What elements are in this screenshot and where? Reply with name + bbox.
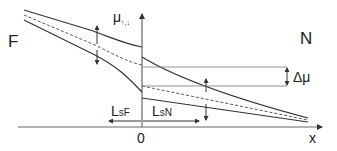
lsf-label: LsF [111,104,130,118]
ferromagnet-mu-down-curve [24,20,142,92]
y-axis-label: μ↑,↓ [113,10,130,24]
x-axis-label: x [309,131,316,145]
ferromagnet-label: F [8,33,18,50]
spin-subscript: ↑,↓ [121,19,130,26]
normal-metal-label: N [300,30,312,47]
spin-accumulation-diagram [0,0,337,151]
lsn-subscript: sN [160,107,172,118]
origin-label: 0 [137,131,145,145]
mu-symbol: μ [113,9,121,25]
lsf-subscript: sF [119,107,130,118]
lsn-label: LsN [152,104,172,118]
lsn-L: L [152,103,160,119]
delta-mu-label: Δμ [293,70,310,84]
lsf-L: L [111,103,119,119]
